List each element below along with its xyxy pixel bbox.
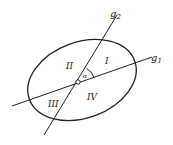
line-g1 (12, 57, 152, 106)
line-g2 (44, 15, 117, 135)
region-label-I: I (104, 56, 109, 66)
intersection-point (76, 80, 80, 84)
region-label-II: II (65, 61, 74, 71)
region-label-III: III (47, 99, 59, 109)
diagram-canvas: g1 g2 I II III IV α (0, 0, 173, 145)
ellipse (16, 25, 147, 135)
angle-label-alpha: α (83, 72, 87, 79)
angle-arc (87, 69, 95, 78)
label-g1: g1 (151, 52, 162, 65)
label-g2: g2 (110, 8, 121, 21)
region-label-IV: IV (86, 92, 99, 102)
